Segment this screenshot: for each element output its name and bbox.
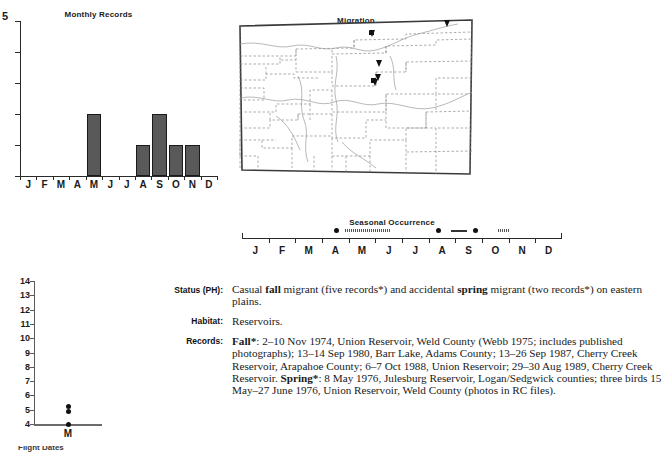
month-label-D-11: D (201, 179, 217, 190)
colorado-county-map (236, 16, 476, 178)
dotplot-point-1 (66, 409, 71, 414)
dotplot-y-tick (30, 281, 34, 282)
bar-n-10 (185, 145, 199, 176)
season-month-F-1: F (273, 245, 291, 256)
status-bold-fall: fall (265, 283, 281, 295)
records-bold-spring: Spring* (280, 372, 318, 384)
seasonal-axis-right-cap (561, 233, 562, 239)
habitat-value: Reservoirs. (232, 315, 665, 328)
dotplot-y-tick (30, 381, 34, 382)
seasonal-tick (482, 238, 483, 243)
occurrence-dotted-5 (498, 229, 509, 232)
dotplot-y-label-10: 10 (8, 333, 30, 343)
status-text-2: migrant (five records*) and accidental (281, 283, 457, 295)
season-month-S-8: S (460, 245, 478, 256)
seasonal-tick (349, 238, 350, 243)
season-month-M-4: M (353, 245, 371, 256)
seasonal-month-labels: JFMAMJJASOND (242, 245, 562, 259)
dotplot-y-tick (30, 295, 34, 296)
month-label-J-5: J (102, 179, 118, 190)
seasonal-tick (509, 238, 510, 243)
dotplot-y-tick (30, 367, 34, 368)
month-label-J-6: J (119, 179, 135, 190)
month-label-O-9: O (168, 179, 184, 190)
dotplot-y-tick (30, 324, 34, 325)
seasonal-tick (269, 238, 270, 243)
dotplot-y-tick (30, 410, 34, 411)
month-label-S-8: S (152, 179, 168, 190)
flight-dates-dotplot: 1413121110987654 M Flight Dates (4, 278, 124, 453)
dotplot-y-label-4: 4 (8, 419, 30, 429)
dotplot-y-tick (30, 310, 34, 311)
monthly-chart-caption: Monthly Records (0, 10, 197, 19)
season-month-M-2: M (300, 245, 318, 256)
seasonal-tick (535, 238, 536, 243)
records-value: Fall*: 2–10 Nov 1974, Union Reservoir, W… (232, 335, 665, 397)
species-account: Status (PH): Casual fall migrant (five r… (160, 283, 665, 404)
bar-m-4 (87, 114, 101, 176)
seasonal-tick (402, 238, 403, 243)
status-bold-spring: spring (457, 283, 487, 295)
occurrence-dotted-1 (345, 229, 390, 232)
dotplot-y-label-9: 9 (8, 348, 30, 358)
dotplot-y-tick (30, 353, 34, 354)
seasonal-caption: Seasonal Occurrence (232, 218, 552, 227)
dotplot-y-axis-line (34, 281, 35, 424)
occurrence-dot-0 (334, 228, 339, 233)
month-label-A-3: A (69, 179, 85, 190)
migration-map-panel: Migration (236, 16, 476, 196)
dotplot-y-label-5: 5 (8, 405, 30, 415)
dotplot-y-tick (30, 395, 34, 396)
seasonal-tick (455, 238, 456, 243)
records-bold-fall: Fall* (232, 335, 256, 347)
seasonal-tick (295, 238, 296, 243)
records-row: Records: Fall*: 2–10 Nov 1974, Union Res… (160, 335, 665, 397)
month-label-N-10: N (184, 179, 200, 190)
seasonal-tick (375, 238, 376, 243)
status-text-1: Casual (232, 283, 265, 295)
bar-o-9 (169, 145, 183, 176)
month-label-J-0: J (20, 179, 36, 190)
habitat-row: Habitat: Reservoirs. (160, 315, 665, 328)
seasonal-tick (429, 238, 430, 243)
status-label: Status (PH): (160, 283, 232, 308)
y-axis-top-label: 5 (2, 10, 8, 22)
dotplot-x-category-M: M (58, 428, 78, 439)
dotplot-y-label-8: 8 (8, 362, 30, 372)
bar-s-8 (152, 114, 166, 176)
bar-a-7 (136, 145, 150, 176)
status-value: Casual fall migrant (five records*) and … (232, 283, 665, 308)
season-month-J-5: J (380, 245, 398, 256)
season-month-A-3: A (326, 245, 344, 256)
season-month-A-7: A (433, 245, 451, 256)
dotplot-y-label-13: 13 (8, 290, 30, 300)
month-label-M-4: M (86, 179, 102, 190)
occurrence-dot-4 (473, 228, 478, 233)
seasonal-tick (322, 238, 323, 243)
month-label-F-1: F (37, 179, 53, 190)
season-month-O-9: O (486, 245, 504, 256)
month-label-A-7: A (135, 179, 151, 190)
dotplot-point-2 (66, 422, 71, 427)
dotplot-y-axis-labels: 1413121110987654 (4, 278, 30, 428)
seasonal-axis-left-cap (242, 233, 243, 239)
records-label: Records: (160, 335, 232, 397)
season-month-D-11: D (540, 245, 558, 256)
dotplot-y-label-6: 6 (8, 390, 30, 400)
bar-series (20, 21, 217, 176)
monthly-records-chart: 5 JFMAMJJASOND Monthly Records (0, 10, 230, 200)
dotplot-y-label-7: 7 (8, 376, 30, 386)
dotplot-y-label-12: 12 (8, 305, 30, 315)
season-month-J-0: J (246, 245, 264, 256)
state-outline (240, 20, 472, 174)
occurrence-dot-2 (436, 228, 441, 233)
occurrence-solid-3 (451, 230, 467, 232)
month-label-M-2: M (53, 179, 69, 190)
dotplot-clipped-caption: Flight Dates (18, 446, 98, 453)
x-axis-month-labels: JFMAMJJASOND (20, 179, 217, 193)
dotplot-y-tick (30, 338, 34, 339)
x-tick (217, 176, 218, 180)
dotplot-y-label-11: 11 (8, 319, 30, 329)
season-month-N-10: N (513, 245, 531, 256)
dotplot-y-label-14: 14 (8, 276, 30, 286)
